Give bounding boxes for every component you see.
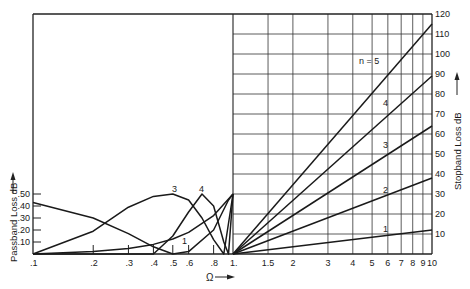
stopband-curve (233, 76, 432, 254)
y-right-tick-label: 80 (435, 89, 445, 99)
y-left-tick-label: .20 (17, 225, 30, 235)
y-axis-right-title: Stopband Loss dB (452, 72, 463, 190)
arrow-up-icon (455, 72, 460, 80)
y-left-tick-label: .10 (17, 237, 30, 247)
x-tick-label: .6 (186, 258, 194, 268)
stopband-grid (233, 14, 432, 254)
arrow-right-icon (227, 275, 235, 280)
x-tick-label: 1. (230, 258, 238, 268)
x-tick-label: 6 (385, 258, 390, 268)
passband-curve-label: 4 (199, 184, 204, 194)
stopband-curve-label: n = 5 (359, 56, 379, 66)
x-tick-label: 3 (325, 258, 330, 268)
x-tick-label: 7 (399, 258, 404, 268)
y-right-tick-label: 90 (435, 69, 445, 79)
passband-loss-label: Passband Loss dB (8, 183, 19, 262)
curve-labels: 1234n = 5134 (172, 56, 388, 246)
y-left-tick-label: .30 (17, 213, 30, 223)
passband-curve-label: 1 (182, 236, 187, 246)
x-tick-label: .1 (30, 258, 38, 268)
omega-label: Ω (206, 272, 214, 283)
passband-curve (33, 194, 233, 254)
y-axis-left-title: Passband Loss dB (8, 172, 19, 262)
stopband-curve-label: 2 (383, 185, 388, 195)
x-tick-label: 2 (290, 258, 295, 268)
y-right-tick-label: 70 (435, 109, 445, 119)
y-left-tick-label: .50 (17, 189, 30, 199)
passband-curve (33, 194, 233, 254)
stopband-curve-label: 3 (383, 140, 388, 150)
x-tick-label: .4 (150, 258, 158, 268)
passband-curve (33, 194, 233, 254)
stopband-curve (233, 24, 432, 254)
y-right-tick-label: 10 (435, 229, 445, 239)
stopband-loss-label: Stopband Loss dB (452, 112, 463, 190)
y-left-tick-label: .40 (17, 201, 30, 211)
y-right-tick-label: 30 (435, 189, 445, 199)
x-tick-label: 5 (370, 258, 375, 268)
y-right-tick-label: 100 (435, 49, 450, 59)
x-tick-label: 9 (420, 258, 425, 268)
x-tick-label: .3 (125, 258, 133, 268)
x-tick-label: 10 (427, 258, 437, 268)
x-tick-label: .8 (211, 258, 219, 268)
y-right-tick-label: 40 (435, 169, 445, 179)
stopband-curve-label: 4 (383, 98, 388, 108)
chart: .1.2.3.4.5.6.81.1.52345678910.10.20.30.4… (0, 0, 470, 289)
passband-curve-label: 3 (172, 184, 177, 194)
passband-curve (33, 194, 233, 254)
y-right-tick-label: 50 (435, 149, 445, 159)
y-right-tick-label: 60 (435, 129, 445, 139)
stopband-curve-label: 1 (383, 224, 388, 234)
y-right-tick-label: 110 (435, 29, 449, 39)
x-tick-label: 4 (350, 258, 355, 268)
x-tick-label: .5 (170, 258, 178, 268)
arrow-up-icon (11, 172, 16, 180)
x-tick-label: 8 (410, 258, 415, 268)
y-right-tick-label: 20 (435, 209, 445, 219)
x-axis-title: Ω (206, 272, 235, 283)
y-right-tick-label: 120 (435, 9, 450, 19)
x-tick-label: .2 (90, 258, 98, 268)
x-tick-label: 1.5 (262, 258, 275, 268)
